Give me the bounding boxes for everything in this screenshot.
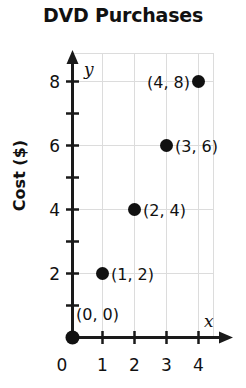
- origin-tick-label-0: 0: [57, 355, 68, 375]
- x-tick-label-3: 3: [161, 355, 172, 375]
- data-point-label-4-8: (4, 8): [147, 73, 190, 92]
- y-tick-label-6: 6: [49, 136, 60, 156]
- x-axis-name: x: [204, 311, 214, 331]
- data-point-0-0: [66, 331, 80, 345]
- data-point-3-6: [160, 139, 173, 152]
- x-axis: [71, 332, 233, 344]
- y-axis-name: y: [83, 59, 94, 79]
- y-axis: [67, 50, 79, 339]
- plot-area: 8 6 4 2 0 1 2 3 4 y x (0, 0) (1, 2) (2, …: [0, 0, 246, 388]
- data-point-1-2: [96, 267, 109, 280]
- data-point-label-0-0: (0, 0): [76, 305, 119, 324]
- data-point-label-2-4: (2, 4): [143, 201, 186, 220]
- y-tick-label-2: 2: [49, 264, 60, 284]
- data-point-2-4: [128, 203, 141, 216]
- y-tick-label-4: 4: [49, 200, 60, 220]
- y-tick-label-8: 8: [49, 72, 60, 92]
- grid-vertical: [103, 53, 214, 337]
- data-point-label-1-2: (1, 2): [111, 265, 154, 284]
- data-point-label-3-6: (3, 6): [175, 137, 218, 156]
- x-tick-label-4: 4: [193, 355, 204, 375]
- data-point-4-8: [192, 75, 205, 88]
- grid-horizontal: [72, 54, 214, 274]
- x-tick-label-2: 2: [129, 355, 140, 375]
- x-tick-label-1: 1: [97, 355, 108, 375]
- dvd-purchases-chart: DVD Purchases Cost ($): [0, 0, 246, 388]
